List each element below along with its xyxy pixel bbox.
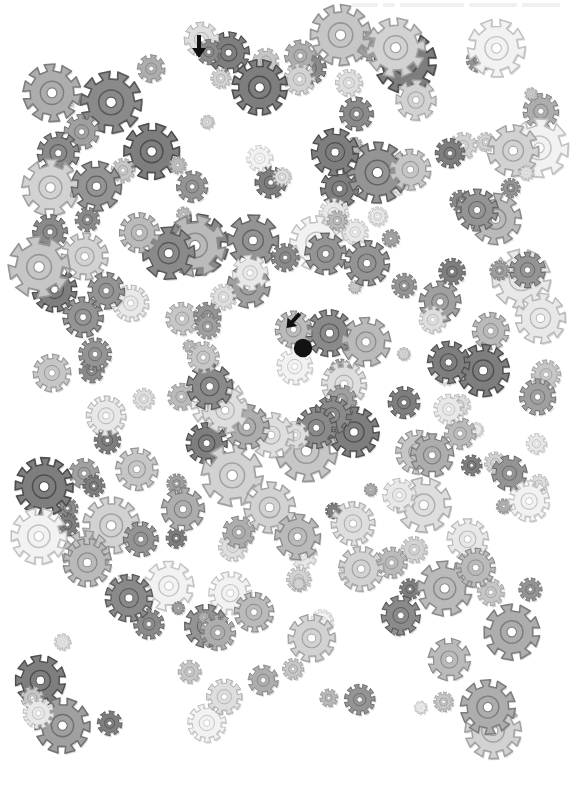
gear-shape [178, 660, 202, 685]
gear-shape [397, 348, 411, 362]
gear-shape [467, 19, 526, 78]
gear-shape [161, 488, 206, 533]
gear-shape [434, 692, 455, 713]
gear-shape [201, 115, 216, 130]
gear-shape [211, 68, 232, 90]
gear-shape [83, 475, 106, 499]
gear-shape [460, 680, 516, 736]
gear-shape [105, 574, 154, 623]
gear-shape [428, 638, 472, 682]
gear-shape [392, 273, 418, 299]
gear-shape [339, 546, 385, 593]
gear-shape [277, 349, 314, 386]
gear-shape [137, 55, 166, 85]
gear-shape [248, 665, 280, 697]
gear-shape [526, 434, 548, 456]
gear-shape [461, 455, 483, 478]
gear-shape [275, 514, 322, 562]
gear-shape [71, 161, 123, 213]
gear-shape [187, 342, 220, 375]
gear-shape [232, 60, 289, 117]
gear-shape [166, 302, 200, 336]
gear-shape [382, 230, 401, 249]
gear-shape [120, 212, 161, 254]
gear-shape [247, 145, 275, 173]
gear-shape [368, 207, 389, 228]
gear-shape [54, 634, 72, 652]
gear-shape [341, 317, 392, 368]
gear-shape [364, 483, 378, 498]
gear-shape [311, 128, 360, 177]
gear-shape [484, 604, 541, 662]
gear-shape [234, 592, 275, 633]
gear-shape [33, 354, 72, 394]
gear-shape [275, 311, 313, 349]
gear-shape [340, 97, 375, 133]
gear-shape [23, 64, 82, 123]
gear-shape [176, 171, 209, 204]
gear-shape [288, 614, 336, 663]
gear-shape [115, 448, 159, 492]
gear-shape [414, 701, 428, 716]
gear-shape [381, 596, 422, 636]
gear-shape [97, 711, 123, 738]
gear-shape [86, 396, 127, 437]
gear-shape [519, 578, 544, 603]
gear-shape [344, 684, 376, 717]
gear-shape [320, 689, 340, 709]
gear-shape [11, 508, 68, 565]
gear-shape [515, 293, 566, 345]
gear-shape [344, 241, 391, 288]
gear-shape [456, 189, 500, 232]
gear-shape [271, 243, 300, 273]
gear-shape [282, 658, 305, 681]
gear-shape [8, 236, 71, 299]
gear-shape [200, 615, 237, 652]
gears-layer [0, 0, 570, 787]
gear-shape [382, 478, 417, 513]
gear-shape [335, 69, 363, 98]
gear-shape [427, 341, 471, 385]
gear-image-canvas [0, 0, 570, 787]
gear-shape [388, 386, 422, 420]
gear-shape [63, 538, 113, 588]
gear-shape [396, 80, 437, 122]
gear-shape [133, 388, 156, 411]
